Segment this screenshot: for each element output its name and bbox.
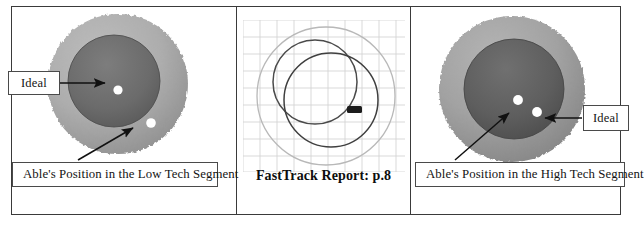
perceptual-map-grid-chart	[243, 20, 405, 172]
product-circle-lower-right	[284, 53, 378, 147]
ideal-label-right-text: Ideal	[593, 111, 619, 126]
ideal-label-left-text: Ideal	[21, 76, 47, 91]
able-position-marker	[146, 118, 156, 128]
panel-perceptual-map-grid: FastTrack Report: p.8	[237, 6, 410, 215]
caption-high-tech-text: Able's Position in the High Tech Segment	[426, 167, 644, 182]
grid-lines	[243, 20, 405, 172]
ideal-label-box-left: Ideal	[8, 71, 60, 95]
caption-box-high-tech: Able's Position in the High Tech Segment	[415, 162, 625, 187]
segment-drift-circle	[257, 27, 395, 165]
inner-fine-cut-circle	[68, 35, 160, 127]
product-position-marker	[347, 106, 362, 113]
ideal-point-marker	[532, 107, 542, 117]
able-position-marker	[513, 95, 523, 105]
inner-fine-cut-circle	[464, 39, 564, 139]
caption-box-low-tech: Able's Position in the Low Tech Segment	[12, 162, 218, 187]
caption-low-tech-text: Able's Position in the Low Tech Segment	[23, 167, 239, 182]
ideal-point-marker	[113, 85, 122, 94]
ideal-label-box-right: Ideal	[583, 105, 629, 131]
fasttrack-report-label: FastTrack Report: p.8	[237, 168, 410, 184]
